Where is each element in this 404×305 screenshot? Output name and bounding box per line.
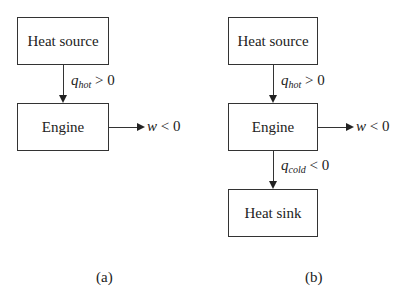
- caption-a: (a): [96, 269, 113, 286]
- engine-label-a: Engine: [42, 119, 85, 136]
- q-cold-arrow-line-b: [273, 151, 274, 182]
- q-hot-arrow-line-a: [63, 65, 64, 96]
- heat-source-label-a: Heat source: [27, 33, 98, 50]
- arrow-right-icon: [346, 123, 354, 131]
- q-relation: > 0: [95, 72, 115, 88]
- q-relation: < 0: [309, 157, 329, 173]
- q-hot-label-a: qhot > 0: [71, 72, 115, 90]
- q-symbol: q: [281, 72, 289, 88]
- q-cold-label-b: qcold < 0: [281, 157, 329, 175]
- q-subscript: cold: [289, 164, 306, 175]
- heat-sink-box-b: Heat sink: [228, 189, 318, 237]
- w-relation: < 0: [370, 118, 390, 134]
- arrow-down-icon: [59, 95, 67, 103]
- work-label-b: w < 0: [356, 118, 389, 135]
- q-subscript: hot: [289, 79, 302, 90]
- caption-b: (b): [305, 269, 323, 286]
- w-symbol: w: [147, 118, 157, 134]
- work-arrow-line-b: [318, 127, 346, 128]
- w-relation: < 0: [161, 118, 181, 134]
- q-relation: > 0: [305, 72, 325, 88]
- engine-box-b: Engine: [228, 103, 318, 151]
- q-subscript: hot: [79, 79, 92, 90]
- arrow-down-icon: [269, 95, 277, 103]
- heat-source-label-b: Heat source: [237, 33, 308, 50]
- q-symbol: q: [71, 72, 79, 88]
- arrow-down-icon: [269, 181, 277, 189]
- heat-source-box-a: Heat source: [17, 17, 109, 65]
- heat-sink-label-b: Heat sink: [244, 205, 301, 222]
- engine-box-a: Engine: [17, 103, 109, 151]
- work-label-a: w < 0: [147, 118, 180, 135]
- q-hot-arrow-line-b: [273, 65, 274, 96]
- w-symbol: w: [356, 118, 366, 134]
- engine-label-b: Engine: [252, 119, 295, 136]
- work-arrow-line-a: [109, 127, 137, 128]
- q-symbol: q: [281, 157, 289, 173]
- arrow-right-icon: [137, 123, 145, 131]
- heat-source-box-b: Heat source: [228, 17, 318, 65]
- q-hot-label-b: qhot > 0: [281, 72, 325, 90]
